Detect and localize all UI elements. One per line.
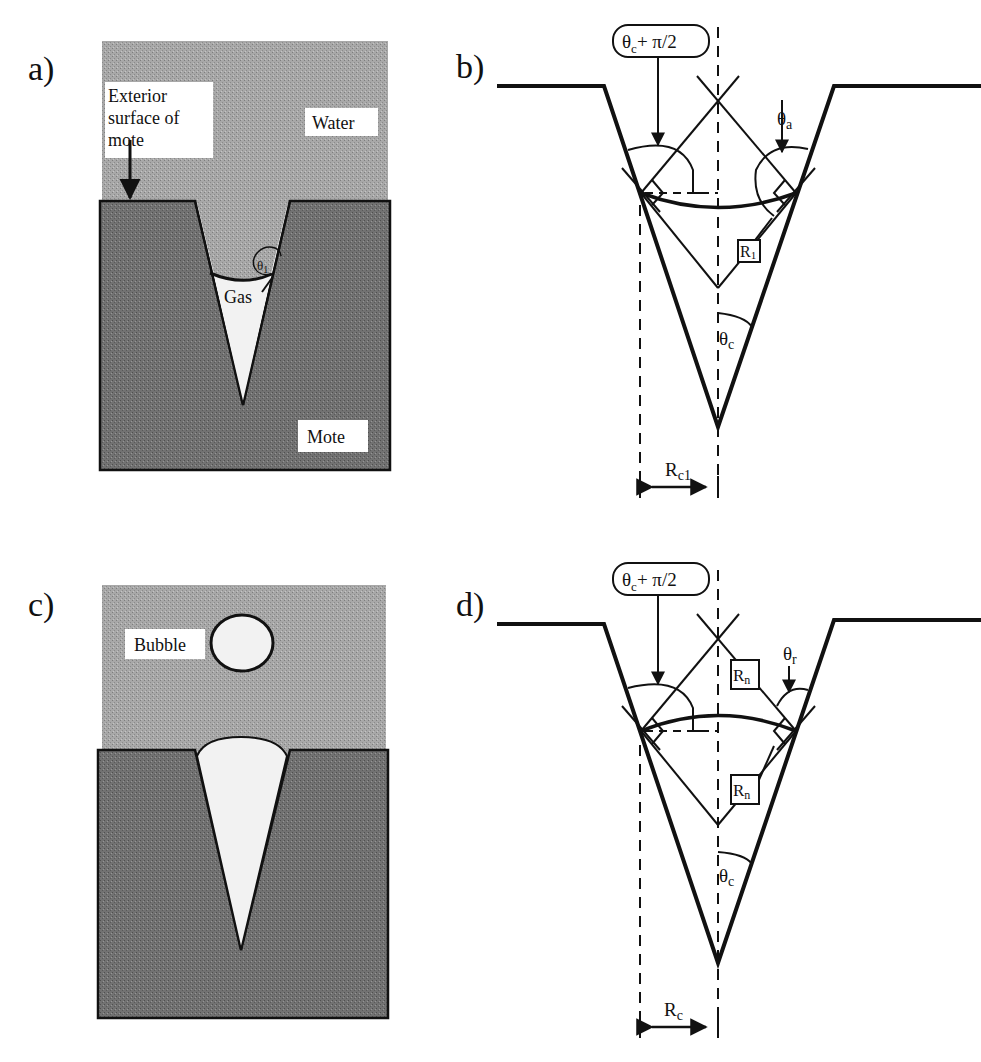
bubble-label: Bubble [134, 635, 186, 655]
rc-label: Rc [664, 999, 683, 1023]
free-bubble [211, 615, 273, 671]
callout-angle-arc [628, 146, 705, 194]
exterior-label-line2: surface of [108, 108, 179, 128]
panel-c-letter: c) [28, 586, 54, 624]
cone-angle-label-b: θc [719, 328, 734, 352]
panel-d: d) θc+ π/2 θr Rn Rn [456, 563, 981, 1038]
rn-leader-bottom [758, 746, 774, 782]
panel-b-letter: b) [456, 48, 484, 86]
right-angle-right-d [774, 718, 785, 744]
advancing-angle-label: θa [777, 108, 793, 132]
normal-left [641, 76, 739, 193]
panel-c: c) Bubble [28, 585, 388, 1018]
panel-a-letter: a) [28, 50, 54, 88]
tangent-right [777, 168, 815, 212]
tangent-left-d [622, 706, 660, 750]
cone-angle-arc-d [718, 852, 752, 864]
cone-angle-arc [718, 313, 752, 327]
figure-canvas: a) θ1 Gas Exterior surface of mote Water… [0, 0, 981, 1062]
mote-label: Mote [307, 427, 345, 447]
panel-a: a) θ1 Gas Exterior surface of mote Water… [28, 41, 390, 470]
exterior-label-line3: mote [108, 130, 144, 150]
panel-d-letter: d) [456, 586, 484, 624]
receding-angle-arc-d [777, 689, 808, 706]
cone-angle-label-d: θc [719, 865, 734, 889]
rc1-label: Rc1 [665, 459, 691, 483]
normal-left-d [641, 614, 739, 731]
gas-label: Gas [224, 287, 252, 307]
water-label: Water [312, 113, 355, 133]
radius-line-left-d [641, 731, 718, 825]
exterior-label-line1: Exterior [108, 86, 167, 106]
receding-angle-label: θr [783, 643, 797, 667]
panel-b: b) θc+ π/2 θa R1 [456, 25, 981, 498]
